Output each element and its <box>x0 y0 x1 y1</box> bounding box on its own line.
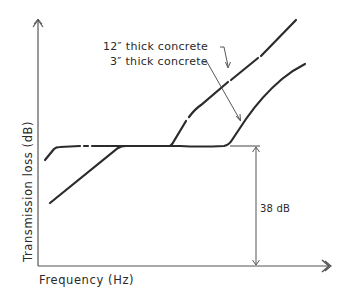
label-3-inch-concrete: 3″ thick concrete <box>110 55 208 68</box>
dimension-arrow-38db <box>253 147 260 265</box>
transmission-loss-diagram: 38 dB 12″ thick concrete 3″ thick concre… <box>0 0 346 301</box>
dimension-label: 38 dB <box>260 203 290 214</box>
label-12-inch-concrete: 12″ thick concrete <box>103 40 208 53</box>
x-axis-title: Frequency (Hz) <box>39 273 134 287</box>
label-leaders <box>203 47 241 121</box>
x-axis <box>38 260 331 272</box>
y-axis-title: Transmission loss (dB) <box>21 121 35 263</box>
